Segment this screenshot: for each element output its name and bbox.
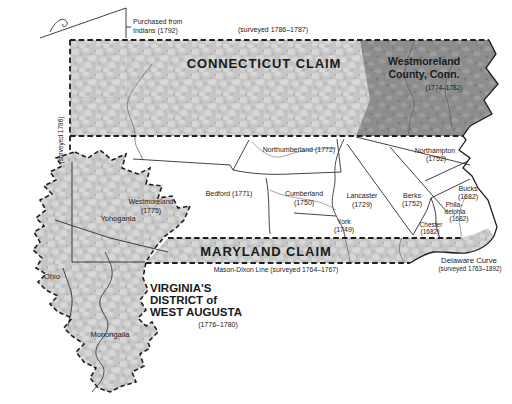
monongalia-label: Monongalia (91, 330, 131, 339)
philadelphia-label-line1: Phila- (446, 201, 463, 208)
berks-label: Berks (403, 192, 421, 199)
purchased-from-indians-label-line2: Indians (1792) (133, 27, 178, 35)
york-cumberland-line (294, 213, 336, 216)
berks-date: (1752) (402, 200, 422, 208)
westmoreland-conn-label-line1: Westmoreland (388, 55, 460, 67)
delaware-curve-label-line2: (surveyed 1763–1892) (438, 265, 501, 273)
virginia-district-label-line1: VIRGINIA'S (150, 282, 212, 294)
lancaster-label: Lancaster (347, 192, 378, 199)
northampton-date: (1752) (426, 155, 446, 163)
york-label: York (337, 218, 351, 225)
northampton-bucks-line (425, 161, 468, 181)
philadelphia-date: (1682) (450, 215, 469, 223)
northampton-label: Northampton (415, 147, 456, 155)
bucks-label: Bucks (458, 185, 478, 192)
bedford-label: Bedford (1771) (206, 190, 253, 198)
westmoreland-pa-date: (1775) (141, 207, 161, 215)
northumberland-label: Northumberland (1772) (263, 146, 335, 154)
erie-triangle-outline (40, 8, 126, 38)
westmoreland-conn-label-line2: County, Conn. (389, 68, 460, 80)
westmoreland-pa-label: Westmoreland (128, 198, 173, 205)
bucks-date: (1682) (458, 193, 478, 201)
cumberland-label: Cumberland (285, 190, 323, 197)
maryland-claim-label: MARYLAND CLAIM (200, 244, 331, 259)
lancaster-berks-line (347, 144, 413, 235)
ohio-label: Ohio (44, 272, 60, 281)
westmoreland-conn-date: (1774–1782) (426, 84, 463, 92)
yohogania-label: Yohogania (100, 214, 136, 223)
chester-date: (1682) (421, 228, 440, 236)
delaware-curve-label-line1: Delaware Curve (441, 256, 497, 265)
mason-dixon-label: Mason-Dixon Line (surveyed 1764–1767) (214, 266, 339, 274)
virginia-district-date: (1776–1780) (198, 321, 238, 329)
chester-label: Chester (420, 221, 444, 228)
york-date: (1749) (334, 226, 354, 234)
west-survey-note: (surveyed 1786) (57, 117, 65, 164)
virginia-district-region (33, 150, 190, 392)
erie-lakeshore-squiggle (50, 19, 67, 32)
lancaster-date: (1729) (352, 201, 372, 209)
purchased-from-indians-label-line1: Purchased from (133, 18, 183, 25)
connecticut-claim-label: CONNECTICUT CLAIM (187, 56, 342, 71)
cumberland-date: (1750) (294, 199, 314, 207)
virginia-district-label-line3: WEST AUGUSTA (150, 306, 242, 318)
cumberland-bedford-line (266, 178, 270, 234)
north-survey-note: (surveyed 1786–1787) (238, 26, 308, 34)
northumberland-border (233, 139, 341, 174)
historical-map-pennsylvania-claims: Purchased from Indians (1792) (surveyed … (0, 0, 512, 404)
map-canvas: Purchased from Indians (1792) (surveyed … (0, 0, 512, 404)
virginia-district-label-line2: DISTRICT of (150, 294, 217, 306)
